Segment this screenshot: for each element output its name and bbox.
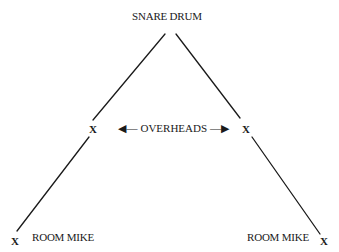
overheads-label: OVERHEADS [140,123,207,134]
line-right-overhead-to-right-room [252,137,320,234]
arrow-right-icon: —▶ [210,123,229,134]
snare-drum-label: SNARE DRUM [132,11,202,22]
room-left-mark: X [11,236,19,247]
overheads-annotation: ◀— OVERHEADS —▶ [118,123,230,134]
arrow-left-icon: ◀— [118,123,137,134]
overhead-right-mark: X [242,124,250,135]
line-snare-to-left-overhead [93,34,165,120]
overhead-left-mark: X [89,124,97,135]
line-snare-to-right-overhead [176,34,240,118]
room-right-mark: X [320,236,328,247]
room-left-label: ROOM MIKE [32,232,94,243]
line-left-overhead-to-left-room [17,137,89,231]
room-right-label: ROOM MIKE [247,232,309,243]
